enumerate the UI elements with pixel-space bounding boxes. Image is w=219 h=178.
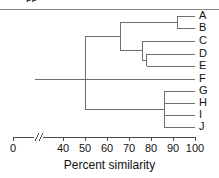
leaf-label-h: H <box>199 97 207 108</box>
tree-branches <box>35 16 195 127</box>
axis-title: Percent similarity <box>0 159 219 172</box>
leaf-label-g: G <box>199 85 208 96</box>
axis-break-slash-1 <box>35 133 39 141</box>
axis-tick-label-0: 0 <box>0 143 27 154</box>
leaf-label-d: D <box>199 48 207 59</box>
leaf-label-j: J <box>199 121 205 132</box>
leaf-label-b: B <box>199 22 206 33</box>
leaf-label-i: I <box>199 109 202 120</box>
axis-break-slash-2 <box>39 133 43 141</box>
leaf-label-c: C <box>199 35 207 46</box>
leaf-label-f: F <box>199 73 206 84</box>
leaf-label-a: A <box>199 10 206 21</box>
axis-tick-label-100: 100 <box>181 143 209 154</box>
leaf-label-e: E <box>199 60 206 71</box>
axis-ruler <box>13 133 195 141</box>
dendrogram-figure: pp ABCDEFGHIJ 0405060708090100 Percent s… <box>0 0 219 178</box>
